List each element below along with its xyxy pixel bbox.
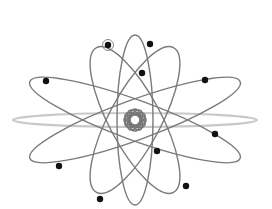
electron [147, 41, 153, 47]
nucleus-ring [124, 107, 145, 132]
electron [97, 196, 103, 202]
orbit-tilt-left [74, 35, 197, 204]
electron [139, 70, 145, 76]
electron [154, 148, 160, 154]
atom-diagram [0, 0, 272, 209]
electron [56, 163, 62, 169]
electron [105, 42, 111, 48]
nucleus-core [130, 115, 140, 125]
orbit-group [23, 35, 247, 205]
orbit-tilt-right [74, 35, 197, 204]
orbit-vertical [117, 35, 153, 205]
electron [202, 77, 208, 83]
orbit-wide-up [23, 63, 247, 177]
electron [183, 183, 189, 189]
orbit-wide-down [23, 63, 247, 177]
electron [43, 78, 49, 84]
electron [212, 131, 218, 137]
nucleus [122, 107, 147, 132]
